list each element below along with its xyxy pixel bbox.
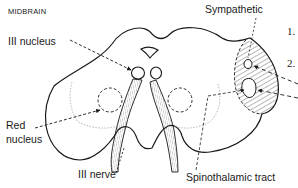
label-red-nucleus-line1: Red [6,120,25,131]
label-iii-nerve: III nerve [78,169,116,180]
label-spinothalamic-tract: Spinothalamic tract [186,172,275,183]
diagram-title: MIDBRAIN [8,8,46,16]
midbrain-cross-section [0,0,298,188]
label-red-nucleus-line2: nucleus [6,134,42,145]
label-sympathetic: Sympathetic [205,4,263,15]
iii-nucleus-left [132,67,145,79]
list-number-2: 2. [287,58,295,69]
hatched-lateral-region [234,40,278,114]
iii-nucleus-right [151,67,162,79]
red-nucleus-right [168,88,192,112]
list-number-1: 1. [287,26,295,37]
sympathetic-nucleus [244,60,252,69]
cerebral-aqueduct [141,47,158,58]
red-nucleus-left [98,88,122,112]
iii-nerve-bundle-left [111,79,142,172]
midbrain-diagram: MIDBRAIN III nucleus Red nucleus III ner… [0,0,298,188]
label-iii-nucleus: III nucleus [8,36,56,47]
